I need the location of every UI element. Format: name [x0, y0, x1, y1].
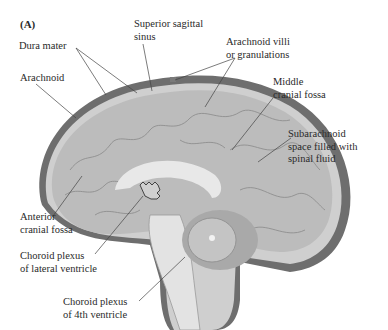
label-choroid-plexus-lateral: Choroid plexus of lateral ventricle [20, 250, 97, 275]
label-arachnoid: Arachnoid [20, 72, 64, 85]
label-choroid-plexus-4th: Choroid plexus of 4th ventricle [63, 296, 127, 321]
panel-label: (A) [20, 18, 35, 30]
label-subarachnoid-space: Subarachnoid space filled with spinal fl… [288, 128, 357, 166]
label-middle-cranial-fossa: Middle cranial fossa [273, 76, 326, 101]
label-anterior-cranial-fossa: Anterior cranial fossa [20, 211, 73, 236]
label-dura-mater: Dura mater [19, 40, 67, 53]
arachnoid-villi [170, 77, 176, 82]
label-arachnoid-villi: Arachnoid villi or granulations [226, 36, 290, 61]
label-superior-sagittal-sinus: Superior sagittal sinus [134, 18, 203, 43]
